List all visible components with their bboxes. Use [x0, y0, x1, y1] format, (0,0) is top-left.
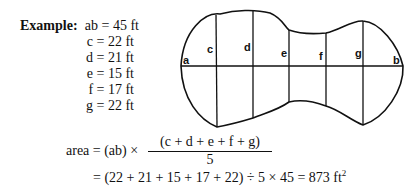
unit-exponent: 2 — [342, 168, 347, 178]
label-c: c — [207, 43, 213, 55]
formula-denominator: 5 — [148, 152, 272, 168]
formula-numerator: (c + d + e + f + g) — [148, 134, 272, 152]
label-g: g — [355, 47, 362, 59]
formula-computation: = (22 + 21 + 15 + 17 + 22) ÷ 5 × 45 = 87… — [93, 170, 342, 185]
label-f: f — [319, 50, 323, 62]
area-outline — [181, 10, 403, 127]
label-d: d — [244, 41, 251, 53]
formula-line2: = (22 + 21 + 15 + 17 + 22) ÷ 5 × 45 = 87… — [93, 168, 346, 186]
label-a: a — [183, 54, 190, 66]
formula-lhs: area = (ab) × — [66, 143, 138, 159]
label-e: e — [281, 47, 287, 59]
formula-fraction: (c + d + e + f + g) 5 — [148, 134, 272, 168]
offset-c — [216, 15, 217, 127]
label-b: b — [393, 54, 400, 66]
